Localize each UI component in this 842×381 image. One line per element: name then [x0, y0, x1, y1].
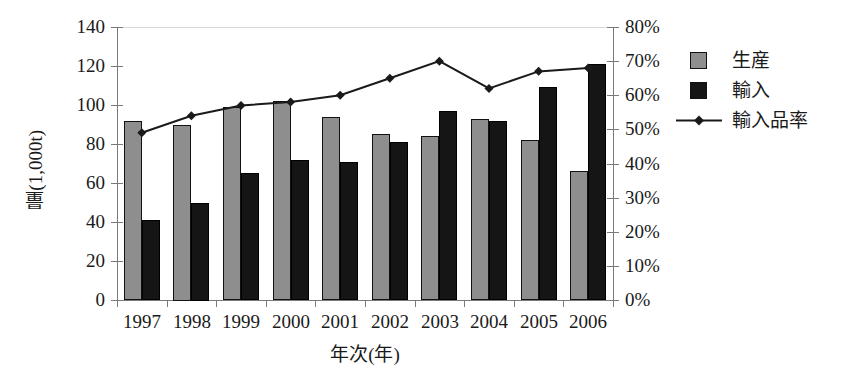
x-axis-tick-label: 2001 — [315, 312, 365, 331]
bar-import-2003 — [439, 111, 457, 300]
legend-label: 輸入 — [732, 81, 770, 100]
x-axis-tick-label: 2006 — [563, 312, 613, 331]
x-axis-tick — [365, 300, 366, 307]
x-axis-tick-label: 2004 — [464, 312, 514, 331]
legend: 生産輸入輸入品率 — [676, 48, 836, 138]
y2-axis-tick-label: 80% — [625, 17, 660, 36]
y-axis-tick-label: 40 — [39, 212, 105, 231]
y-axis-tick — [111, 66, 123, 67]
x-axis-tick-label: 2005 — [514, 312, 564, 331]
bar-production-2003 — [421, 136, 439, 300]
bar-import-1998 — [191, 203, 209, 301]
x-axis-title: 年次(年) — [255, 345, 475, 365]
bar-import-2002 — [390, 142, 408, 300]
bar-production-2005 — [521, 140, 539, 300]
bar-production-2006 — [570, 171, 588, 300]
y-axis-tick — [111, 183, 123, 184]
y-axis-tick-label: 80 — [39, 134, 105, 153]
line-marker-2004 — [485, 84, 494, 93]
bar-production-2004 — [471, 119, 489, 300]
x-axis-tick-label: 2002 — [365, 312, 415, 331]
line-marker-2003 — [435, 57, 444, 66]
legend-label: 生産 — [732, 51, 770, 70]
y2-axis-tick-label: 10% — [625, 256, 660, 275]
y2-axis-tick-label: 40% — [625, 154, 660, 173]
y-axis-tick — [111, 27, 123, 28]
line-marker-2002 — [385, 74, 394, 83]
x-axis-tick — [464, 300, 465, 307]
x-axis-tick-label: 1999 — [216, 312, 266, 331]
x-axis-tick — [167, 300, 168, 307]
bar-import-2006 — [588, 64, 606, 300]
y-axis-tick — [111, 144, 123, 145]
legend-item-3: 輸入品率 — [676, 108, 836, 138]
x-axis-tick — [266, 300, 267, 307]
y2-axis-tick-label: 60% — [625, 85, 660, 104]
line-marker-2001 — [336, 91, 345, 100]
x-axis-tick — [216, 300, 217, 307]
y-axis-tick-label: 140 — [39, 17, 105, 36]
x-axis-tick-label: 1998 — [167, 312, 217, 331]
x-axis-tick — [613, 300, 614, 307]
x-axis-tick — [315, 300, 316, 307]
x-axis-tick — [415, 300, 416, 307]
y2-axis-tick-label: 50% — [625, 119, 660, 138]
y-axis-tick-label: 100 — [39, 95, 105, 114]
y2-axis-tick — [607, 266, 619, 267]
legend-item-1: 生産 — [676, 48, 836, 78]
bar-production-2001 — [322, 117, 340, 300]
bar-production-1997 — [124, 121, 142, 300]
bar-production-2002 — [372, 134, 390, 300]
x-axis-tick — [514, 300, 515, 307]
y-axis-tick-label: 0 — [39, 290, 105, 309]
bar-import-2001 — [340, 162, 358, 300]
bar-import-1997 — [142, 220, 160, 300]
line-marker-2005 — [534, 67, 543, 76]
y-axis-tick-label: 120 — [39, 56, 105, 75]
bar-production-2000 — [273, 101, 291, 300]
y2-axis-tick-label: 20% — [625, 222, 660, 241]
chart-root: 量(1,000t) 年次(年) 020406080100120140 0%10%… — [0, 0, 842, 381]
x-axis-tick-label: 1997 — [117, 312, 167, 331]
y2-axis-tick-label: 30% — [625, 188, 660, 207]
x-axis-tick-label: 2003 — [415, 312, 465, 331]
y2-axis-tick — [607, 27, 619, 28]
y2-axis-tick — [607, 164, 619, 165]
y2-axis-tick-label: 70% — [625, 51, 660, 70]
legend-swatch-production-icon — [690, 52, 707, 69]
legend-swatch-import-icon — [690, 82, 707, 99]
line-import-ratio — [142, 61, 588, 133]
y-axis-tick — [111, 261, 123, 262]
bar-production-1999 — [223, 107, 241, 300]
x-axis-tick-label: 2000 — [266, 312, 316, 331]
legend-line-diamond-icon — [676, 112, 722, 129]
line-marker-1998 — [187, 111, 196, 120]
y-axis-tick-label: 60 — [39, 173, 105, 192]
y-axis-left-line — [117, 27, 118, 301]
bar-import-2005 — [539, 87, 557, 300]
y-axis-tick — [111, 105, 123, 106]
bar-import-2000 — [291, 160, 309, 300]
y2-axis-tick — [607, 232, 619, 233]
y2-axis-tick — [607, 95, 619, 96]
x-axis-tick — [117, 300, 118, 307]
y-axis-tick — [111, 222, 123, 223]
plot-top-border — [117, 27, 614, 28]
y2-axis-tick-label: 0% — [625, 290, 650, 309]
legend-label: 輸入品率 — [732, 111, 808, 130]
bar-production-1998 — [173, 125, 191, 301]
bar-import-2004 — [489, 121, 507, 300]
x-axis-tick — [563, 300, 564, 307]
y2-axis-tick — [607, 129, 619, 130]
y-axis-tick-label: 20 — [39, 251, 105, 270]
y2-axis-tick — [607, 61, 619, 62]
legend-item-2: 輸入 — [676, 78, 836, 108]
y2-axis-tick — [607, 198, 619, 199]
bar-import-1999 — [241, 173, 259, 300]
